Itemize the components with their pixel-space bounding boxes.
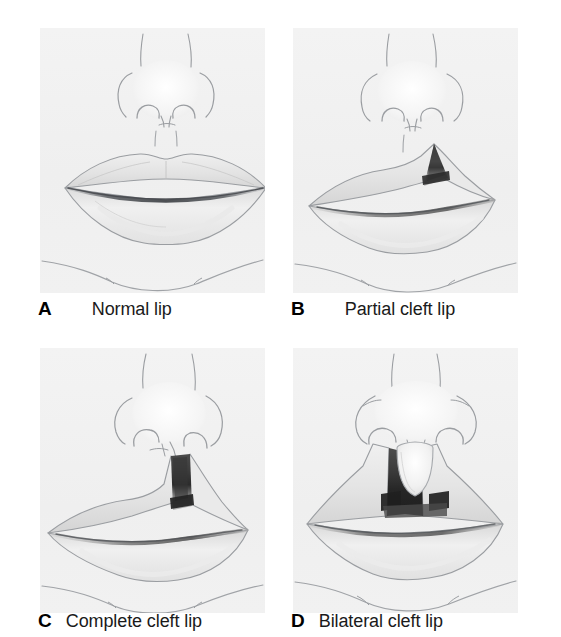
- panel-normal-lip: [40, 28, 265, 293]
- panel-label-d: Bilateral cleft lip: [319, 611, 443, 632]
- panel-letter-a: A: [38, 298, 52, 320]
- caption-panel-d: D Bilateral cleft lip: [291, 608, 443, 634]
- panel-letter-c: C: [38, 610, 52, 632]
- panel-letter-d: D: [291, 610, 305, 632]
- panel-complete-cleft-lip: [40, 348, 265, 613]
- panel-label-c: Complete cleft lip: [66, 611, 202, 632]
- partial-cleft-lip-illustration: [293, 28, 518, 293]
- caption-panel-b: B Partial cleft lip: [291, 296, 455, 322]
- bilateral-cleft-lip-illustration: [293, 348, 518, 613]
- cleft-lip-figure: A Normal lip B Partial cleft lip C Compl…: [0, 0, 561, 637]
- panel-letter-b: B: [291, 298, 305, 320]
- caption-panel-a: A Normal lip: [38, 296, 172, 322]
- panel-partial-cleft-lip: [293, 28, 518, 293]
- normal-lip-illustration: [40, 28, 265, 293]
- complete-cleft-lip-illustration: [40, 348, 265, 613]
- panel-label-a: Normal lip: [92, 299, 172, 320]
- panel-label-b: Partial cleft lip: [345, 299, 455, 320]
- panel-bilateral-cleft-lip: [293, 348, 518, 613]
- caption-panel-c: C Complete cleft lip: [38, 608, 202, 634]
